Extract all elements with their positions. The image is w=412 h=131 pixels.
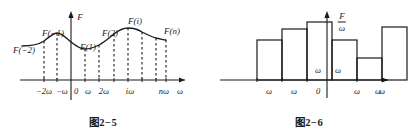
caption-number: 2−5 xyxy=(99,117,117,128)
caption-number: 2−6 xyxy=(305,117,323,128)
x-tick-n-omega: nω xyxy=(159,87,169,96)
x-tick-origin: 0 xyxy=(316,87,320,96)
bar-2 xyxy=(282,29,307,80)
x-tick-minus-2omega: −2ω xyxy=(36,87,52,96)
figure-2-5: F ω F(−2) F(−1) F(1) F(2) F(i) F(n) −2ω … xyxy=(0,0,206,131)
figure-sheet: F ω F(−2) F(−1) F(1) F(2) F(i) F(n) −2ω … xyxy=(0,0,412,131)
curve-label-f-i: F(i) xyxy=(128,17,142,26)
x-axis-label: ω xyxy=(177,87,183,96)
figure-2-5-caption: 图2−5 xyxy=(0,114,206,129)
caption-prefix: 图 xyxy=(295,117,305,128)
y-axis-numerator: F xyxy=(338,12,346,21)
x-tick-label-2: ω xyxy=(291,87,297,96)
inner-width-label-right: ω xyxy=(335,66,341,75)
bar-1 xyxy=(257,40,282,80)
caption-prefix: 图 xyxy=(89,117,99,128)
x-tick-2omega: 2ω xyxy=(99,87,109,96)
x-tick-label-1: ω xyxy=(266,87,272,96)
curve-label-f-n: F(n) xyxy=(164,27,180,36)
x-tick-i-omega: iω xyxy=(126,87,134,96)
figure-2-6-caption: 图2−6 xyxy=(206,114,412,129)
curve-label-f-1: F(1) xyxy=(80,43,96,52)
spectrum-bars xyxy=(257,22,407,80)
x-axis xyxy=(20,77,185,82)
y-axis-label-fraction: F ω xyxy=(338,12,346,33)
y-axis xyxy=(68,11,73,100)
figure-2-6: F ω ω ω ω ω ω 0 ω ω 图2−6 xyxy=(206,0,412,131)
curve-label-f-minus-2: F(−2) xyxy=(13,46,35,55)
curve-label-f-minus-1: F(−1) xyxy=(42,29,64,38)
x-tick-origin: 0 xyxy=(74,87,78,96)
x-tick-label-3: ω xyxy=(354,87,360,96)
y-axis-label: F xyxy=(77,13,83,22)
bar-5 xyxy=(357,58,382,80)
y-axis xyxy=(324,11,329,98)
curve-label-f-2: F(2) xyxy=(102,29,118,38)
x-tick-label-4: ω xyxy=(379,87,385,96)
figure-2-6-plot: F ω ω ω ω ω ω 0 ω ω xyxy=(206,0,412,108)
y-axis-denominator: ω xyxy=(338,24,346,33)
x-tick-omega: ω xyxy=(85,87,91,96)
inner-width-label-left: ω xyxy=(315,66,321,75)
x-tick-minus-omega: −ω xyxy=(56,87,68,96)
bar-6 xyxy=(382,27,407,80)
figure-2-5-plot: F ω F(−2) F(−1) F(1) F(2) F(i) F(n) −2ω … xyxy=(0,0,206,108)
